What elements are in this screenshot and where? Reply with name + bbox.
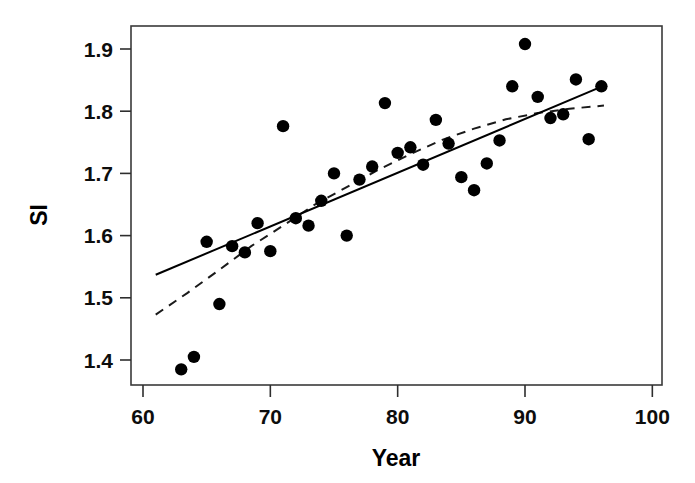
- x-axis-title: Year: [372, 445, 421, 471]
- data-point-marker: [404, 141, 416, 153]
- data-point-marker: [481, 157, 493, 169]
- data-point-marker: [315, 195, 327, 207]
- x-axis-tick-labels: 60708090100: [131, 405, 670, 428]
- data-point-marker: [366, 160, 378, 172]
- smoothed-fit-line: [156, 106, 604, 315]
- data-point-marker: [506, 80, 518, 92]
- data-point-marker: [570, 73, 582, 85]
- data-point-marker: [226, 240, 238, 252]
- data-point-marker: [213, 298, 225, 310]
- y-tick-label: 1.8: [84, 100, 114, 123]
- scatter-plot-figure: 1.41.51.61.71.81.9 60708090100 SI Year: [0, 0, 695, 483]
- x-tick-label: 100: [635, 405, 670, 428]
- data-point-marker: [379, 97, 391, 109]
- y-axis-tick-labels: 1.41.51.61.71.81.9: [84, 38, 114, 372]
- data-point-marker: [455, 171, 467, 183]
- y-tick-label: 1.6: [84, 224, 113, 247]
- data-point-marker: [493, 134, 505, 146]
- x-tick-label: 80: [386, 405, 409, 428]
- data-point-marker: [468, 184, 480, 196]
- y-tick-label: 1.4: [84, 349, 114, 372]
- y-tick-label: 1.9: [84, 38, 113, 61]
- data-point-marker: [532, 91, 544, 103]
- y-tick-label: 1.5: [84, 286, 114, 309]
- data-point-marker: [442, 137, 454, 149]
- data-point-marker: [341, 229, 353, 241]
- y-axis-title: SI: [26, 204, 52, 226]
- x-tick-label: 90: [513, 405, 536, 428]
- y-axis-tick-marks: [120, 49, 131, 360]
- data-point-marker: [277, 120, 289, 132]
- data-point-marker: [544, 112, 556, 124]
- data-point-marker: [519, 38, 531, 50]
- y-tick-label: 1.7: [84, 162, 113, 185]
- data-point-marker: [582, 133, 594, 145]
- data-point-marker: [200, 236, 212, 248]
- data-point-marker: [557, 108, 569, 120]
- data-point-marker: [264, 245, 276, 257]
- data-point-marker: [430, 114, 442, 126]
- data-point-marker: [417, 158, 429, 170]
- scatter-data-points: [175, 38, 608, 376]
- linear-fit-line: [156, 86, 604, 275]
- x-axis-tick-marks: [143, 385, 652, 397]
- data-point-marker: [290, 212, 302, 224]
- data-point-marker: [251, 217, 263, 229]
- data-point-marker: [239, 246, 251, 258]
- data-point-marker: [302, 219, 314, 231]
- plot-frame: [131, 26, 662, 385]
- x-tick-label: 70: [259, 405, 282, 428]
- data-point-marker: [391, 147, 403, 159]
- data-point-marker: [353, 173, 365, 185]
- data-point-marker: [175, 363, 187, 375]
- data-point-marker: [188, 351, 200, 363]
- data-point-marker: [328, 167, 340, 179]
- x-tick-label: 60: [131, 405, 154, 428]
- data-point-marker: [595, 80, 607, 92]
